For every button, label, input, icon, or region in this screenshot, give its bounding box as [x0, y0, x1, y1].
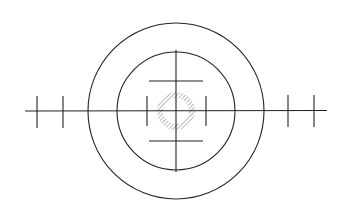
reticle-diagram [0, 0, 343, 215]
reticle-group [25, 23, 327, 199]
